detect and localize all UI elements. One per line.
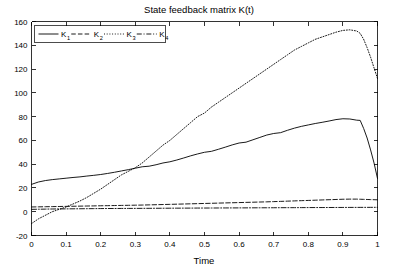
legend-subscript-2: 2 [100,35,103,41]
y-tick-label: 40 [19,160,28,169]
x-tick-label: 0.4 [164,240,176,249]
y-tick-label: 160 [14,18,28,27]
y-tick-label: 20 [19,184,28,193]
line-chart: State feedback matrix K(t) 00.10.20.30.4… [0,0,398,276]
x-tick-label: 0.7 [268,240,280,249]
x-tick-label: 0.2 [95,240,107,249]
y-tick-label: 0 [23,208,28,217]
x-tick-label: 0.6 [234,240,246,249]
x-tick-label: 0.1 [61,240,73,249]
y-tick-label: 60 [19,136,28,145]
chart-legend[interactable]: K1K2K3K4 [35,26,169,43]
y-tick-label: 80 [19,113,28,122]
legend-subscript-3: 3 [133,35,136,41]
x-tick-label: 0.3 [130,240,142,249]
x-tick-label: 1 [375,240,380,249]
legend-subscript-4: 4 [165,35,168,41]
y-tick-label: 100 [14,89,28,98]
x-tick-label: 0.5 [199,240,211,249]
x-axis-label: Time [194,255,215,266]
x-tick-label: 0.9 [337,240,349,249]
figure-canvas: State feedback matrix K(t) 00.10.20.30.4… [0,0,398,276]
legend-subscript-1: 1 [67,35,70,41]
chart-title: State feedback matrix K(t) [144,4,254,15]
x-tick-label: 0 [29,240,34,249]
y-tick-label: 140 [14,41,28,50]
x-tick-label: 0.8 [303,240,315,249]
y-tick-label: -20 [16,232,28,241]
y-tick-label: 120 [14,65,28,74]
